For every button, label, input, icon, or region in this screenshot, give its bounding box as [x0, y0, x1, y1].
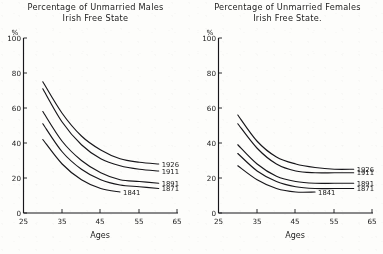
- y-tick-label: 100: [7, 34, 21, 43]
- x-tick-label: 25: [19, 217, 28, 226]
- figure-sheet: Percentage of Unmarried Males Irish Free…: [0, 0, 383, 254]
- series-curve-1926: [43, 82, 159, 164]
- x-axis-ticks: [24, 209, 178, 213]
- series-curve-1926: [238, 115, 354, 169]
- series-label-1911: 1911: [162, 168, 179, 176]
- y-tick-label: 60: [207, 104, 217, 113]
- x-tick-label: 55: [329, 217, 338, 226]
- series-curve-1891: [43, 112, 159, 184]
- series-label-1871: 1871: [162, 185, 179, 193]
- series-curve-1871: [43, 124, 159, 189]
- x-tick-label: 55: [134, 217, 143, 226]
- series-curve-1911: [43, 89, 159, 171]
- x-tick-label: 25: [214, 217, 223, 226]
- y-tick-label: 60: [12, 104, 22, 113]
- x-tick-label: 45: [290, 217, 299, 226]
- series-label-1841: 1841: [123, 189, 140, 197]
- x-tick-label: 35: [252, 217, 261, 226]
- chart-plot-females: % 100 80 60 40 20 0: [192, 0, 383, 254]
- y-tick-label: 20: [12, 174, 22, 183]
- x-tick-label: 45: [95, 217, 104, 226]
- x-axis-ticks: [219, 209, 373, 213]
- y-tick-label: 20: [207, 174, 217, 183]
- chart-panel-males: Percentage of Unmarried Males Irish Free…: [0, 0, 191, 254]
- series-label-1911: 1911: [357, 169, 374, 177]
- series-label-1871: 1871: [357, 185, 374, 193]
- x-tick-label: 35: [57, 217, 66, 226]
- x-axis-title: Ages: [90, 231, 110, 240]
- series-curve-1841: [43, 140, 120, 193]
- y-tick-label: 80: [207, 69, 217, 78]
- chart-plot-males: % 100 80 60 40 20 0: [0, 0, 191, 254]
- y-tick-label: 100: [202, 34, 216, 43]
- y-tick-label: 40: [207, 139, 217, 148]
- series-curve-1911: [238, 124, 354, 173]
- y-tick-label: 40: [12, 139, 22, 148]
- x-tick-label: 65: [172, 217, 181, 226]
- chart-panel-females: Percentage of Unmarried Females Irish Fr…: [192, 0, 383, 254]
- series-label-1841: 1841: [318, 189, 335, 197]
- x-axis-title: Ages: [285, 231, 305, 240]
- x-tick-label: 65: [367, 217, 376, 226]
- y-tick-label: 80: [12, 69, 22, 78]
